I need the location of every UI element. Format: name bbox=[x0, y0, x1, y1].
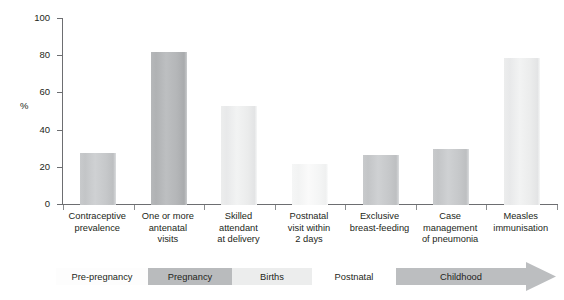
x-axis-category-label: Contraceptiveprevalence bbox=[62, 211, 133, 234]
category-label-line: One or more bbox=[133, 211, 204, 223]
bar bbox=[151, 52, 187, 205]
stage-segment-pre-pregnancy: Pre-pregnancy bbox=[56, 268, 148, 285]
stage-segment-births: Births bbox=[232, 268, 312, 285]
y-axis-title: % bbox=[20, 100, 28, 111]
y-axis-tick-label: 0 bbox=[24, 198, 50, 209]
x-axis-category-label: Skilledattendantat delivery bbox=[203, 211, 274, 246]
x-axis-tick bbox=[204, 205, 205, 210]
x-axis-category-label: One or moreantenatalvisits bbox=[133, 211, 204, 246]
category-label-line: antenatal bbox=[133, 223, 204, 235]
x-axis-tick bbox=[134, 205, 135, 210]
bar-slot bbox=[486, 18, 557, 205]
category-label-line: Case bbox=[415, 211, 486, 223]
category-label-line: breast-feeding bbox=[344, 223, 415, 235]
category-label-line: attendant bbox=[203, 223, 274, 235]
y-axis-tick-label: 60 bbox=[24, 86, 50, 97]
stage-segment-childhood: Childhood bbox=[396, 268, 526, 285]
category-label-line: at delivery bbox=[203, 234, 274, 246]
category-label-line: management bbox=[415, 223, 486, 235]
stage-segment-label: Pregnancy bbox=[168, 272, 212, 282]
bar bbox=[504, 58, 540, 205]
category-label-line: visit within bbox=[274, 223, 345, 235]
stage-segment-pregnancy: Pregnancy bbox=[148, 268, 232, 285]
x-axis-tick bbox=[275, 205, 276, 210]
arrow-head-icon bbox=[526, 262, 556, 291]
category-label-line: prevalence bbox=[62, 223, 133, 235]
stage-segment-label: Pre-pregnancy bbox=[72, 272, 133, 282]
category-label-line: visits bbox=[133, 234, 204, 246]
stage-segment-postnatal: Postnatal bbox=[312, 268, 396, 285]
category-label-line: 2 days bbox=[274, 234, 345, 246]
bar bbox=[363, 155, 399, 205]
x-axis-category-label: Postnatalvisit within2 days bbox=[274, 211, 345, 246]
bar bbox=[221, 106, 257, 205]
stage-segment-label: Childhood bbox=[440, 272, 482, 282]
x-axis-category-label: Casemanagementof pneumonia bbox=[415, 211, 486, 246]
category-label-line: Contraceptive bbox=[62, 211, 133, 223]
category-label-line: Skilled bbox=[203, 211, 274, 223]
bar-slot bbox=[134, 18, 205, 205]
x-axis-category-labels: ContraceptiveprevalenceOne or moreantena… bbox=[62, 211, 558, 259]
x-axis-tick bbox=[63, 205, 64, 210]
y-axis-tick-label: 80 bbox=[24, 49, 50, 60]
x-axis-tick bbox=[557, 205, 558, 210]
chart-figure: % 020406080100 ContraceptiveprevalenceOn… bbox=[0, 0, 564, 300]
bar bbox=[433, 149, 469, 205]
bar-slot bbox=[345, 18, 416, 205]
life-stage-strip: ChildhoodPostnatalBirthsPregnancyPre-pre… bbox=[56, 268, 556, 285]
category-label-line: of pneumonia bbox=[415, 234, 486, 246]
x-axis-tick bbox=[486, 205, 487, 210]
category-label-line: Postnatal bbox=[274, 211, 345, 223]
y-axis-tick-label: 20 bbox=[24, 161, 50, 172]
bar-slot bbox=[63, 18, 134, 205]
category-label-line: Measles bbox=[485, 211, 556, 223]
y-axis-tick-label: 40 bbox=[24, 124, 50, 135]
bar bbox=[80, 153, 116, 205]
stage-segment-label: Births bbox=[260, 272, 284, 282]
bar-slot bbox=[275, 18, 346, 205]
bar-series bbox=[63, 18, 558, 205]
bar-slot bbox=[204, 18, 275, 205]
x-axis-tick bbox=[345, 205, 346, 210]
x-axis-category-label: Exclusivebreast-feeding bbox=[344, 211, 415, 234]
category-label-line: Exclusive bbox=[344, 211, 415, 223]
category-label-line: immunisation bbox=[485, 223, 556, 235]
bar bbox=[292, 164, 328, 205]
stage-segment-label: Postnatal bbox=[335, 272, 374, 282]
x-axis-category-label: Measlesimmunisation bbox=[485, 211, 556, 234]
x-axis-tick bbox=[416, 205, 417, 210]
bar-slot bbox=[416, 18, 487, 205]
y-axis-tick-label: 100 bbox=[24, 12, 50, 23]
